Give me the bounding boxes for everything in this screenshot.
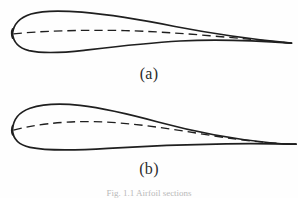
airfoil-a-leading-edge <box>12 29 13 38</box>
figure-container: (a) (b) Fig. 1.1 Airfoil sections <box>0 0 298 198</box>
panel-label-a: (a) <box>0 66 298 82</box>
airfoil-a-upper-surface <box>13 11 292 43</box>
airfoil-b-lower-surface <box>13 130 297 150</box>
airfoil-panel-a <box>12 11 292 53</box>
airfoil-panel-b <box>12 104 296 150</box>
airfoil-b-upper-surface <box>13 104 297 144</box>
airfoil-a-lower-surface <box>13 34 292 53</box>
figure-caption: Fig. 1.1 Airfoil sections <box>0 190 298 198</box>
figure-caption-strip: Fig. 1.1 Airfoil sections <box>0 190 298 198</box>
airfoil-b-leading-edge <box>12 126 13 135</box>
panel-label-b: (b) <box>0 161 298 177</box>
